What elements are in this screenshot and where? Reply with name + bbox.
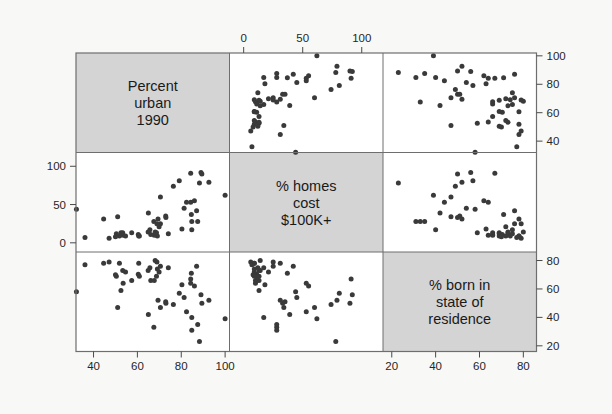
data-point (306, 284, 311, 289)
data-point (448, 123, 453, 128)
data-point (195, 322, 200, 327)
data-point (448, 194, 453, 199)
data-point (459, 180, 464, 185)
data-point (287, 103, 292, 108)
data-point (470, 178, 475, 183)
data-point (294, 295, 299, 300)
data-point (337, 83, 342, 88)
data-point (490, 99, 495, 104)
data-point (521, 230, 526, 235)
data-point (293, 289, 298, 294)
data-point (512, 221, 517, 226)
data-point (154, 259, 159, 264)
data-point (448, 214, 453, 219)
data-point (261, 315, 266, 320)
data-point (82, 262, 87, 267)
data-point (189, 212, 194, 217)
data-point (147, 227, 152, 232)
data-point (271, 98, 276, 103)
data-point (152, 278, 157, 283)
data-point (163, 299, 168, 304)
data-point (158, 194, 163, 199)
data-point (101, 217, 106, 222)
data-point (396, 181, 401, 186)
tick-label: 80 (175, 360, 188, 372)
data-point (182, 295, 187, 300)
data-point (333, 339, 338, 344)
data-point (137, 274, 142, 279)
data-point (433, 227, 438, 232)
data-point (431, 53, 436, 58)
data-point (486, 76, 491, 81)
data-point (484, 81, 489, 86)
data-point (413, 219, 418, 224)
data-point (179, 227, 184, 232)
data-point (304, 309, 309, 314)
tick-label: 40 (87, 360, 100, 372)
data-point (151, 325, 156, 330)
data-point (468, 170, 473, 175)
data-point (422, 219, 427, 224)
data-point (251, 124, 256, 129)
tick-label: 80 (547, 255, 560, 267)
data-point (519, 129, 524, 134)
data-point (206, 180, 211, 185)
splom-panels-layer: Percenturban1990% homescost$100K+% born … (47, 32, 566, 372)
data-point (329, 302, 334, 307)
data-point (294, 80, 299, 85)
data-point (158, 305, 163, 310)
data-point (503, 224, 508, 229)
data-point (188, 171, 193, 176)
data-point (154, 274, 159, 279)
data-point (481, 73, 486, 78)
data-point (199, 301, 204, 306)
data-point (455, 171, 460, 176)
data-point (512, 72, 517, 77)
data-point (516, 217, 521, 222)
data-point (194, 264, 199, 269)
data-point (464, 80, 469, 85)
tick-label: 20 (547, 340, 560, 352)
scatter-panel-homes-vs-urban (230, 53, 384, 153)
tick-label: 40 (547, 311, 560, 323)
data-point (189, 219, 194, 224)
data-point (192, 284, 197, 289)
data-point (113, 234, 118, 239)
data-point (189, 227, 194, 232)
data-point (197, 181, 202, 186)
data-point (157, 269, 162, 274)
data-point (333, 70, 338, 75)
data-point (146, 312, 151, 317)
scatter-panel-urban-vs-born (76, 252, 230, 352)
data-point (459, 64, 464, 69)
data-point (107, 259, 112, 264)
data-point (271, 259, 276, 264)
data-point (266, 269, 271, 274)
data-point (163, 214, 168, 219)
data-point (197, 339, 202, 344)
data-point (249, 262, 254, 267)
data-point (262, 282, 267, 287)
data-point (475, 230, 480, 235)
data-point (484, 227, 489, 232)
data-point (349, 277, 354, 282)
data-point (195, 219, 200, 224)
data-point (258, 258, 263, 263)
data-point (334, 64, 339, 69)
splom-canvas: Percenturban1990% homescost$100K+% born … (0, 0, 612, 414)
data-point (179, 282, 184, 287)
data-point (199, 171, 204, 176)
data-point (468, 69, 473, 74)
data-point (457, 92, 462, 97)
data-point (418, 219, 423, 224)
data-point (129, 278, 134, 283)
data-point (501, 212, 506, 217)
data-point (123, 233, 128, 238)
data-point (512, 208, 517, 213)
data-point (312, 305, 317, 310)
data-point (184, 309, 189, 314)
data-point (486, 119, 491, 124)
data-point (501, 75, 506, 80)
data-point (453, 184, 458, 189)
data-point (283, 299, 288, 304)
